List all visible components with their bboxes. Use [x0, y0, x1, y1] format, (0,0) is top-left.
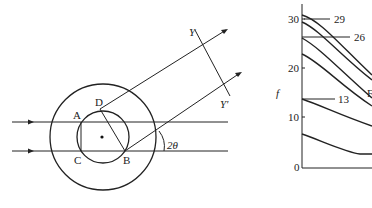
y-axis-label: f	[276, 87, 281, 99]
curve-label-f: F	[367, 87, 372, 99]
arrow-icon	[221, 29, 228, 34]
label-y-prime: Y'	[220, 98, 229, 110]
ytick-10: 10	[288, 111, 300, 123]
curve-6	[302, 134, 372, 154]
label-d: D	[95, 96, 103, 108]
angle-arc	[159, 131, 164, 151]
curve-3	[302, 38, 372, 98]
label-a: A	[73, 109, 81, 121]
curve-label-26: 26	[354, 31, 366, 43]
label-c: C	[74, 154, 81, 166]
chart	[302, 4, 372, 168]
curve-13	[302, 99, 372, 126]
curve-label-29: 29	[334, 13, 346, 25]
curve-4	[302, 54, 372, 106]
ytick-0: 0	[294, 161, 300, 173]
figure: A D C B Y Y' 2θ 30 20 10 0 f 29 26 13 F	[0, 0, 372, 208]
wavefront-yy	[195, 30, 230, 96]
diffracted-ray-bottom	[125, 73, 240, 151]
ytick-30: 30	[288, 13, 300, 25]
diffracted-ray-top	[100, 30, 226, 109]
segment-db	[100, 109, 125, 151]
label-b: B	[123, 154, 130, 166]
curve-label-13: 13	[338, 93, 350, 105]
center-dot	[100, 135, 103, 138]
ytick-20: 20	[288, 62, 300, 74]
arrow-icon	[28, 149, 34, 154]
arrow-icon	[28, 120, 34, 125]
label-2theta: 2θ	[167, 139, 179, 151]
